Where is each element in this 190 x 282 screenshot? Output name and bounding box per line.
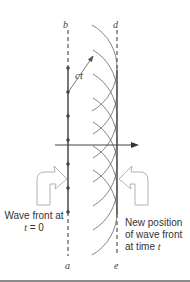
caption-initial-line2: t = 0 (3, 222, 65, 234)
caption-initial-rest: = 0 (27, 222, 44, 233)
label-ct: ct (75, 70, 83, 80)
hollow-arrow-left-icon (37, 166, 67, 205)
caption-new-line2: of wave front (125, 229, 189, 241)
caption-new-pre: at time (125, 241, 158, 252)
caption-initial-line1: Wave front at (3, 210, 65, 222)
label-b: b (63, 20, 68, 30)
wavelets (92, 25, 117, 255)
caption-initial-front: Wave front at t = 0 (3, 210, 65, 234)
caption-new-front: New position of wave front at time t (125, 217, 189, 253)
hollow-arrow-right-icon (119, 166, 148, 205)
label-a: a (65, 261, 70, 271)
label-e: e (114, 261, 118, 271)
caption-new-line1: New position (125, 217, 189, 229)
caption-new-var: t (158, 241, 161, 252)
caption-new-line3: at time t (125, 241, 189, 253)
label-d: d (113, 20, 118, 30)
